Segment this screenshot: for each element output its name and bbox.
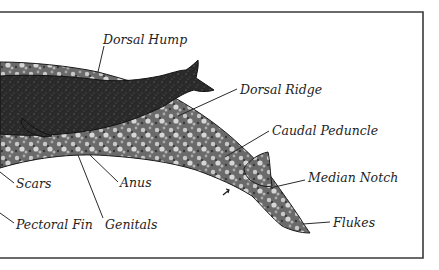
label-dorsal-hump: Dorsal Hump xyxy=(102,32,187,47)
leader-scars xyxy=(0,172,14,183)
label-dorsal-ridge: Dorsal Ridge xyxy=(239,82,322,97)
whale-anatomy-figure: Dorsal Hump Dorsal Ridge Caudal Peduncle… xyxy=(0,0,439,270)
arrow-marker xyxy=(223,189,229,195)
leader-dorsal-hump xyxy=(98,46,104,72)
leader-flukes xyxy=(303,222,330,224)
label-scars: Scars xyxy=(16,176,51,191)
label-flukes: Flukes xyxy=(332,215,375,230)
label-anus: Anus xyxy=(119,175,152,190)
leader-pectoral-fin xyxy=(0,213,14,223)
label-genitals: Genitals xyxy=(105,217,157,232)
leader-anus xyxy=(90,155,118,182)
label-pectoral-fin: Pectoral Fin xyxy=(15,217,93,232)
whale-illustration: Dorsal Hump Dorsal Ridge Caudal Peduncle… xyxy=(0,0,439,270)
label-median-notch: Median Notch xyxy=(307,170,398,185)
label-caudal-peduncle: Caudal Peduncle xyxy=(272,123,378,138)
